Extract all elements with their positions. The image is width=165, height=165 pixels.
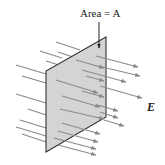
flux-diagram xyxy=(0,0,165,165)
field-line xyxy=(20,120,46,128)
area-label: Area = A xyxy=(80,7,120,19)
field-line xyxy=(58,145,96,155)
field-line xyxy=(16,127,46,136)
surface-plate xyxy=(46,37,106,152)
field-line xyxy=(56,42,80,50)
field-line xyxy=(28,109,46,115)
field-line xyxy=(22,76,46,83)
electric-field-label: E xyxy=(147,100,155,115)
field-line xyxy=(16,65,46,74)
field-line xyxy=(16,94,46,103)
field-line xyxy=(104,120,124,126)
